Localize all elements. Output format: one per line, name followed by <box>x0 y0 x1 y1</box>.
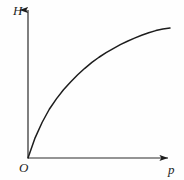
x-axis-label: p <box>168 163 175 176</box>
y-axis-label: H <box>13 4 22 17</box>
origin-label: O <box>19 161 28 174</box>
data-curve <box>28 28 170 158</box>
figure-container: H O p <box>0 0 184 180</box>
graph-canvas <box>0 0 184 180</box>
